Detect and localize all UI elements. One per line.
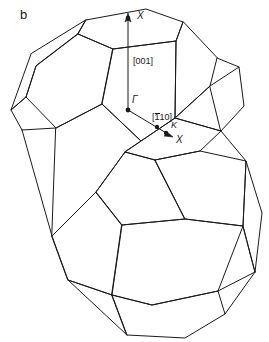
direction-label-1bar10: [110] [152,113,172,122]
x-lower-point-marker [164,131,168,135]
direction-label-1bar10-overbar-digit: 1 [155,113,160,122]
point-label-gamma: Γ [132,95,138,105]
point-label-x-lower: X [176,135,183,145]
brillouin-zone-figure: b X [001] Γ [110] K X [0,0,269,342]
panel-letter: b [20,8,27,21]
point-label-k: K [171,121,177,130]
lower-zone-wireframe [22,104,262,338]
brillouin-zone-drawing [0,0,269,342]
direction-vector-001 [125,13,131,112]
point-label-x-top: X [137,11,144,21]
direction-label-001: [001] [133,57,153,66]
k-point-marker [155,125,159,129]
x-top-point-marker [126,16,130,20]
